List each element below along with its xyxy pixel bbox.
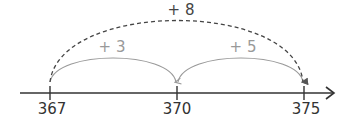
axis <box>20 86 334 100</box>
jump-label-plus-5: + 5 <box>230 40 257 55</box>
tick-label-370: 370 <box>163 102 192 117</box>
jump-arc-plus-3 <box>50 58 176 82</box>
tick-label-367: 367 <box>38 102 67 117</box>
tick-label-375: 375 <box>292 102 321 117</box>
jump-arc-plus-8 <box>50 21 303 83</box>
total-jump-label: + 8 <box>168 3 195 18</box>
jump-label-plus-3: + 3 <box>99 40 126 55</box>
number-line-diagram: + 8 + 3 + 5 367 370 375 <box>0 0 346 126</box>
jump-arc-plus-5 <box>178 58 303 82</box>
